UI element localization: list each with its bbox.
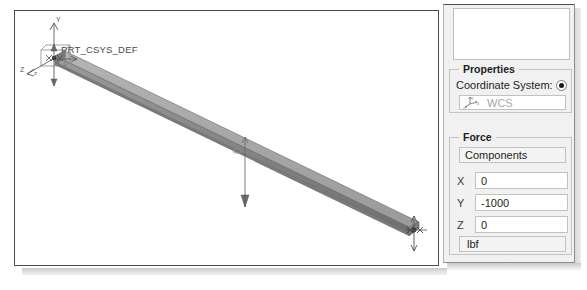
- beam-model: [55, 51, 419, 236]
- force-type-value: Components: [465, 149, 527, 161]
- svg-text:x: x: [477, 101, 480, 106]
- viewport-drop-shadow: [22, 268, 447, 275]
- force-group: Force Components X 0 Y -1000 Z 0 lbf: [449, 137, 572, 255]
- force-component-row-y: Y -1000: [453, 193, 568, 212]
- coordinate-system-value: WCS: [487, 97, 513, 109]
- csys-label: PRT_CSYS_DEF: [61, 44, 138, 55]
- force-axis-label-x: X: [453, 175, 475, 187]
- triad-axis-y-label: Y: [56, 16, 61, 23]
- properties-group: Properties Coordinate System: Y x z WCS: [449, 69, 572, 113]
- force-axis-label-z: Z: [453, 219, 475, 231]
- force-group-title: Force: [459, 132, 496, 143]
- svg-text:Y: Y: [471, 96, 474, 101]
- force-axis-label-y: Y: [453, 197, 475, 209]
- force-units-combo[interactable]: lbf: [459, 236, 566, 252]
- panel-right-edge: [575, 8, 581, 264]
- force-component-row-z: Z 0: [453, 215, 568, 234]
- force-type-combo[interactable]: Components: [459, 147, 566, 163]
- model-canvas: Y Z z PRT_CSYS_DEF: [15, 11, 438, 265]
- references-listbox[interactable]: [453, 8, 570, 60]
- triad-axis-z-tick: z: [34, 70, 37, 76]
- properties-group-title: Properties: [459, 64, 519, 75]
- triad-axis-z-label: Z: [20, 66, 25, 73]
- force-units-value: lbf: [467, 238, 479, 250]
- force-dialog-panel: Properties Coordinate System: Y x z WCS …: [443, 4, 575, 263]
- force-component-row-x: X 0: [453, 171, 568, 190]
- dialog-drop-shadow: [447, 263, 581, 270]
- force-value-input-y[interactable]: -1000: [475, 194, 568, 211]
- force-value-input-x[interactable]: 0: [475, 172, 568, 189]
- force-value-input-z[interactable]: 0: [475, 216, 568, 233]
- csys-mini-icon: Y x z: [463, 96, 483, 109]
- svg-text:z: z: [463, 105, 465, 110]
- coordinate-system-label: Coordinate System:: [456, 79, 553, 91]
- coordinate-system-field[interactable]: Y x z WCS: [459, 95, 566, 110]
- coordinate-system-radio[interactable]: [556, 80, 567, 91]
- graphics-viewport[interactable]: Y Z z PRT_CSYS_DEF: [14, 10, 439, 266]
- coordinate-system-row: Coordinate System:: [456, 78, 567, 92]
